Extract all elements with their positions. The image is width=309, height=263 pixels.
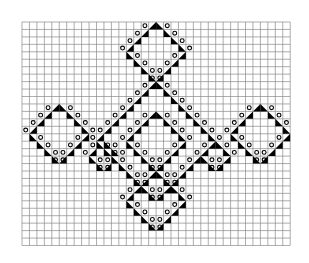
yarn-over-icon <box>39 136 43 140</box>
decrease-left-icon <box>126 134 133 141</box>
yarn-over-icon <box>31 121 35 125</box>
lace-chart <box>0 0 309 263</box>
decrease-right-icon <box>134 59 141 66</box>
decrease-left-icon <box>111 119 118 126</box>
yarn-over-icon <box>217 136 221 140</box>
yarn-over-icon <box>68 106 72 110</box>
decrease-right-icon <box>231 134 238 141</box>
decrease-left-icon <box>164 216 171 223</box>
yarn-over-icon <box>158 158 162 162</box>
decrease-right-icon <box>268 111 275 118</box>
decrease-right-icon <box>82 126 89 133</box>
yarn-over-icon <box>143 150 147 154</box>
decrease-left-icon <box>156 74 163 81</box>
decrease-left-icon <box>171 208 178 215</box>
yarn-over-icon <box>180 128 184 132</box>
decrease-left-icon <box>164 156 171 163</box>
decrease-right-icon <box>156 82 163 89</box>
decrease-left-icon <box>52 104 59 111</box>
decrease-left-icon <box>149 171 156 178</box>
decrease-left-icon <box>156 223 163 230</box>
yarn-over-icon <box>165 113 169 117</box>
yarn-over-icon <box>165 83 169 87</box>
decrease-right-icon <box>149 193 156 200</box>
yarn-over-icon <box>143 83 147 87</box>
decrease-right-icon <box>134 149 141 156</box>
yarn-over-icon <box>232 150 236 154</box>
yarn-over-icon <box>121 136 125 140</box>
yarn-over-icon <box>173 121 177 125</box>
decrease-right-icon <box>246 149 253 156</box>
yarn-over-icon <box>150 188 154 192</box>
decrease-right-icon <box>260 104 267 111</box>
decrease-right-icon <box>164 178 171 185</box>
decrease-left-icon <box>104 164 111 171</box>
yarn-over-icon <box>188 46 192 50</box>
yarn-over-icon <box>195 150 199 154</box>
yarn-over-icon <box>165 173 169 177</box>
yarn-over-icon <box>255 150 259 154</box>
decrease-right-icon <box>223 149 230 156</box>
decrease-left-icon <box>253 104 260 111</box>
decrease-right-icon <box>141 186 148 193</box>
decrease-left-icon <box>216 164 223 171</box>
yarn-over-icon <box>180 188 184 192</box>
decrease-left-icon <box>44 111 51 118</box>
yarn-over-icon <box>121 195 125 199</box>
yarn-over-icon <box>173 203 177 207</box>
yarn-over-icon <box>165 150 169 154</box>
yarn-over-icon <box>106 121 110 125</box>
decrease-left-icon <box>141 29 148 36</box>
decrease-left-icon <box>29 126 36 133</box>
decrease-right-icon <box>97 164 104 171</box>
yarn-over-icon <box>195 113 199 117</box>
yarn-over-icon <box>54 150 58 154</box>
decrease-left-icon <box>178 141 185 148</box>
decrease-right-icon <box>104 149 111 156</box>
chart-grid <box>22 22 290 246</box>
decrease-right-icon <box>67 111 74 118</box>
decrease-left-icon <box>156 193 163 200</box>
yarn-over-icon <box>121 106 125 110</box>
decrease-right-icon <box>89 156 96 163</box>
decrease-right-icon <box>141 216 148 223</box>
yarn-over-icon <box>143 61 147 65</box>
decrease-right-icon <box>178 193 185 200</box>
decrease-left-icon <box>141 89 148 96</box>
decrease-left-icon <box>126 104 133 111</box>
decrease-left-icon <box>201 149 208 156</box>
decrease-left-icon <box>171 178 178 185</box>
decrease-left-icon <box>134 126 141 133</box>
decrease-left-icon <box>74 141 81 148</box>
decrease-right-icon <box>104 141 111 148</box>
decrease-right-icon <box>134 178 141 185</box>
decrease-right-icon <box>171 97 178 104</box>
decrease-left-icon <box>141 119 148 126</box>
decrease-left-icon <box>134 37 141 44</box>
yarn-over-icon <box>150 217 154 221</box>
decrease-right-icon <box>134 208 141 215</box>
decrease-right-icon <box>178 104 185 111</box>
yarn-over-icon <box>173 54 177 58</box>
yarn-over-icon <box>39 113 43 117</box>
yarn-over-icon <box>188 106 192 110</box>
yarn-over-icon <box>136 91 140 95</box>
yarn-over-icon <box>46 106 50 110</box>
yarn-over-icon <box>136 143 140 147</box>
decrease-right-icon <box>119 164 126 171</box>
decrease-right-icon <box>201 156 208 163</box>
yarn-over-icon <box>247 106 251 110</box>
decrease-right-icon <box>208 164 215 171</box>
decrease-left-icon <box>134 97 141 104</box>
yarn-over-icon <box>165 61 169 65</box>
yarn-over-icon <box>121 150 125 154</box>
decrease-right-icon <box>59 104 66 111</box>
yarn-over-icon <box>143 210 147 214</box>
yarn-over-icon <box>173 91 177 95</box>
decrease-left-icon <box>193 156 200 163</box>
decrease-left-icon <box>149 22 156 29</box>
yarn-over-icon <box>83 121 87 125</box>
yarn-over-icon <box>143 173 147 177</box>
decrease-right-icon <box>74 119 81 126</box>
decrease-right-icon <box>186 111 193 118</box>
